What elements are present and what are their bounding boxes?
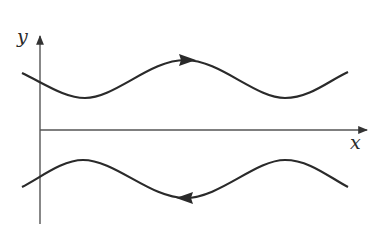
left-arrow-icon [176,192,193,204]
right-arrow-icon [179,54,196,66]
upper-trajectory-curve [22,60,348,98]
y-axis-label: y [17,27,28,46]
x-axis-label: x [350,133,361,152]
lower-trajectory-curve [22,160,348,198]
diagram-canvas [0,0,377,241]
